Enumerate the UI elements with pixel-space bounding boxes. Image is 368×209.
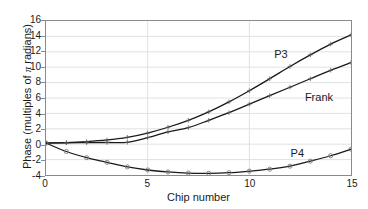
y-axis-tick-label: -4 — [1, 171, 41, 181]
y-axis-tick-label: 16 — [1, 15, 41, 25]
y-axis-tick-labels: -4-20246810121416 — [0, 20, 41, 176]
y-axis-tick-label: 14 — [1, 31, 41, 41]
x-axis-tick-label: 15 — [346, 178, 357, 189]
y-axis-tick-label: 10 — [1, 62, 41, 72]
y-axis-tick-label: 12 — [1, 46, 41, 56]
y-axis-tick-label: 4 — [1, 109, 41, 119]
y-axis-tick-label: -2 — [1, 155, 41, 165]
x-axis-tick-label: 10 — [244, 178, 255, 189]
y-axis-tick-mark — [41, 176, 45, 177]
y-axis-tick-label: 0 — [1, 140, 41, 150]
series-label-p4: P4 — [291, 147, 304, 159]
x-axis-label: Chip number — [45, 191, 352, 204]
x-axis-tick-labels: 051015 — [45, 178, 352, 192]
series-line-p3 — [46, 35, 351, 143]
series-label-frank: Frank — [305, 91, 333, 103]
figure-canvas: Phase (multiples of π radians) -4-202468… — [0, 0, 368, 209]
y-axis-tick-label: 8 — [1, 77, 41, 87]
x-axis-tick-label: 0 — [42, 178, 48, 189]
x-axis-tick-label: 5 — [145, 178, 151, 189]
y-axis-tick-label: 6 — [1, 93, 41, 103]
y-axis-tick-label: 2 — [1, 124, 41, 134]
series-label-p3: P3 — [274, 48, 287, 60]
series-line-p4 — [46, 143, 351, 173]
